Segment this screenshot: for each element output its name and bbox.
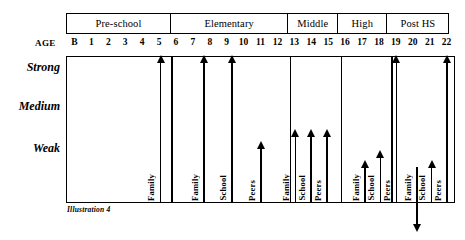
age-tick-15: 15 [323, 37, 333, 47]
level-label-medium: Medium [0, 99, 60, 114]
arrow-head-up-icon [392, 55, 400, 63]
stage-box-label: High [352, 18, 373, 29]
figure-caption: Illustration 4 [67, 205, 110, 214]
age-tick-11: 11 [256, 37, 265, 47]
arrow-head-up-icon [200, 55, 208, 63]
age-tick-4: 4 [140, 37, 145, 47]
stage-box-high: High [337, 13, 388, 34]
age-tick-B: B [71, 37, 77, 47]
stage-box-elementary: Elementary [170, 13, 289, 34]
stage-box-label: Middle [297, 18, 328, 29]
age-tick-22: 22 [442, 37, 452, 47]
arrow-elementary-family: Family [203, 62, 205, 203]
stage-box-pre-school: Pre-school [66, 13, 171, 34]
stage-header-row: Pre-schoolElementaryMiddleHighPost HS [66, 13, 455, 34]
arrow-head-up-icon [307, 129, 315, 137]
arrow-head-up-icon [443, 55, 451, 63]
arrow-elementary-school: School [231, 62, 233, 203]
stage-box-label: Elementary [204, 18, 253, 29]
age-tick-9: 9 [224, 37, 229, 47]
age-tick-18: 18 [374, 37, 384, 47]
stage-box-label: Post HS [400, 18, 435, 29]
arrow-elementary-peers: Peers [260, 148, 262, 203]
age-tick-3: 3 [123, 37, 128, 47]
arrow-post-hs-peers: Peers [446, 62, 448, 203]
age-tick-16: 16 [340, 37, 350, 47]
age-tick-19: 19 [391, 37, 401, 47]
age-tick-21: 21 [425, 37, 435, 47]
age-tick-13: 13 [290, 37, 300, 47]
arrow-label: Peers [434, 180, 465, 201]
age-tick-6: 6 [174, 37, 179, 47]
arrow-middle-peers: Peers [326, 136, 328, 203]
arrow-head-up-icon [157, 55, 165, 63]
age-tick-20: 20 [408, 37, 418, 47]
age-tick-7: 7 [190, 37, 195, 47]
stage-box-middle: Middle [287, 13, 338, 34]
age-tick-1: 1 [89, 37, 94, 47]
stage-box-post-hs: Post HS [386, 13, 449, 34]
arrow-head-up-icon [228, 55, 236, 63]
age-tick-row: B12345678910111213141516171819202122 [66, 37, 455, 49]
stage-box-label: Pre-school [96, 18, 142, 29]
arrow-middle-family: Family [295, 136, 297, 203]
arrow-head-up-icon [257, 141, 265, 149]
arrow-head-up-icon [428, 160, 436, 168]
level-label-strong: Strong [0, 60, 60, 75]
age-tick-5: 5 [157, 37, 162, 47]
age-tick-17: 17 [357, 37, 367, 47]
age-tick-10: 10 [239, 37, 249, 47]
age-tick-2: 2 [106, 37, 111, 47]
age-axis-label: AGE [35, 38, 56, 48]
arrow-head-up-icon [291, 129, 299, 137]
level-label-weak: Weak [0, 141, 60, 156]
arrow-head-up-icon [323, 129, 331, 137]
age-tick-8: 8 [207, 37, 212, 47]
arrow-middle-school: School [310, 136, 312, 203]
arrow-head-up-icon [361, 160, 369, 168]
plot-area: FamilyFamilySchoolPeersFamilySchoolPeers… [66, 56, 455, 203]
influence-chart: Pre-schoolElementaryMiddleHighPost HS AG… [0, 0, 465, 240]
arrow-high-peers: Peers [396, 62, 398, 203]
arrow-pre-school-family: Family [160, 62, 162, 203]
arrow-head-down-icon [413, 224, 421, 232]
age-tick-14: 14 [306, 37, 316, 47]
age-tick-12: 12 [273, 37, 283, 47]
arrow-head-up-icon [376, 150, 384, 158]
